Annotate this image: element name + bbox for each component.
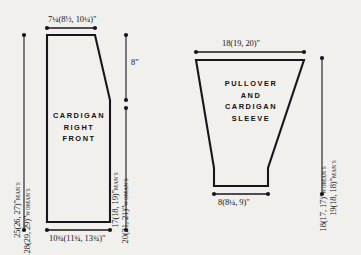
sleeve-cuff-width-dimension: [212, 192, 270, 196]
sleeve-length-mans-suffix: MAN'S: [331, 160, 337, 178]
cardigan-top-width-dimension: [45, 26, 97, 30]
cardigan-right-height-womans-label: 20(21, 21)"WOMAN'S: [120, 178, 130, 243]
sleeve-cuff-width-label: 8(8¼, 9)": [218, 197, 250, 207]
schematic-diagram: 7¼(8½, 10¼)" 10¾(11¾, 13¾)" 8" 25(26, 27…: [0, 0, 361, 255]
cardigan-right-height-womans-value: 20(21, 21)": [120, 206, 130, 244]
sleeve-length-womans-label: 18(17, 17)"WOMAN'S: [318, 166, 328, 231]
cardigan-bottom-width-label: 10¾(11¾, 13¾)": [49, 233, 105, 243]
cardigan-right-height-mans-label: 17(18, 19)"MAN'S: [110, 172, 120, 228]
cardigan-armhole-depth-dimension: [124, 33, 128, 102]
cardigan-right-height-mans-suffix: MAN'S: [113, 172, 119, 190]
sleeve-length-womans-suffix: WOMAN'S: [321, 166, 327, 194]
cardigan-left-height-womans-value: 28(29, 29)": [22, 216, 32, 254]
sleeve-name: PULLOVER AND CARDIGAN SLEEVE: [206, 78, 296, 124]
sleeve-name-line-1: PULLOVER: [206, 78, 296, 90]
sleeve-length-mans-value: 19(18, 18)": [328, 178, 338, 216]
cardigan-name-line-1: CARDIGAN: [47, 110, 111, 122]
cardigan-right-height-mans-value: 17(18, 19)": [110, 190, 120, 228]
cardigan-left-height-mans-suffix: MAN'S: [15, 182, 21, 200]
cardigan-bottom-width-dimension: [45, 228, 112, 232]
sleeve-name-line-2: AND: [206, 90, 296, 102]
sleeve-length-womans-value: 18(17, 17)": [318, 194, 328, 232]
cardigan-left-height-mans-value: 25(26, 27)": [12, 200, 22, 238]
cardigan-top-width-label: 7¼(8½, 10¼)": [48, 14, 96, 24]
cardigan-name-line-2: RIGHT: [47, 122, 111, 134]
cardigan-left-height-womans-label: 28(29, 29)"WOMAN'S: [22, 188, 32, 253]
cardigan-left-height-mans-label: 25(26, 27)"MAN'S: [12, 182, 22, 238]
sleeve-name-line-4: SLEEVE: [206, 113, 296, 125]
cardigan-right-height-womans-suffix: WOMAN'S: [123, 178, 129, 206]
sleeve-name-line-3: CARDIGAN: [206, 101, 296, 113]
sleeve-top-width-label: 18(19, 20)": [222, 38, 260, 48]
cardigan-armhole-depth-label: 8": [131, 57, 139, 67]
cardigan-left-height-womans-suffix: WOMAN'S: [25, 188, 31, 216]
cardigan-name-line-3: FRONT: [47, 133, 111, 145]
cardigan-right-front-name: CARDIGAN RIGHT FRONT: [47, 110, 111, 145]
sleeve-top-width-dimension: [194, 50, 306, 54]
sleeve-length-mans-label: 19(18, 18)"MAN'S: [328, 160, 338, 216]
